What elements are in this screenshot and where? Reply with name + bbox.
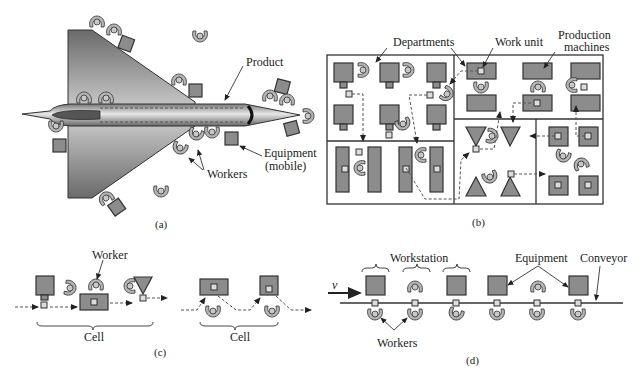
cell-left-label: Cell (84, 330, 105, 344)
panel-c-cellular-layout: Worker Cell Cell (c) (15, 248, 311, 359)
workers-label: Workers (207, 167, 248, 181)
work-unit (581, 84, 587, 90)
worker-icon (193, 31, 208, 42)
worker-label: Worker (92, 248, 128, 262)
worker-icon (187, 127, 205, 142)
mobile-equipment (284, 120, 300, 136)
mobile-equipment (189, 84, 202, 97)
panel-a-caption: (a) (155, 218, 168, 231)
product-label: Product (246, 55, 284, 69)
work-unit (386, 132, 392, 138)
line-workers (368, 307, 586, 322)
conveyor-label: Conveyor (580, 251, 627, 265)
production-machine (334, 63, 353, 82)
worker-icon (280, 94, 295, 105)
workstation-label: Workstation (390, 251, 448, 265)
cell-machine (134, 277, 152, 294)
production-machine (427, 63, 446, 82)
production-machine (501, 127, 520, 146)
product-pointer (225, 66, 243, 100)
equipment-label-d: Equipment (515, 251, 568, 265)
worker-icon (49, 121, 64, 132)
production-machine (523, 63, 552, 79)
workstation-equipment (569, 276, 588, 295)
mobile-equipment (108, 198, 126, 216)
equipment-label: Equipment (264, 146, 317, 160)
panel-b-process-layout: Departments Work unit Production machine… (327, 28, 611, 229)
workstation-equipment (488, 276, 507, 295)
production-machine (427, 105, 446, 124)
work-unit (508, 171, 514, 177)
worker-icon (171, 141, 189, 156)
worker-icon (107, 24, 122, 35)
work-unit (473, 146, 479, 152)
mobile-equipment (225, 132, 238, 145)
department-heat-treat (549, 127, 598, 195)
production-machines-label-sub: machines (564, 40, 610, 54)
workstation-equipment (366, 276, 385, 295)
production-machine (334, 105, 353, 124)
work-unit (478, 68, 484, 74)
cell-machine (36, 276, 54, 295)
worker-icon (303, 109, 314, 124)
equipment-label-sub: (mobile) (265, 159, 306, 173)
panel-d-caption: (d) (466, 354, 479, 367)
production-machine (571, 95, 600, 111)
worker-icon (154, 186, 169, 197)
worker-icon (205, 127, 220, 138)
workstation-equipment (447, 276, 466, 295)
panel-d-flow-line: v Workstation Equipment (328, 251, 627, 367)
production-machine (368, 147, 381, 192)
production-layouts-figure: Product Equipment (mobile) Workers (a) (0, 0, 637, 382)
production-machine (501, 177, 520, 196)
mobile-equipment (53, 139, 66, 152)
production-machine (380, 63, 399, 82)
worker-icon (89, 279, 104, 290)
equipment-pointer (240, 146, 262, 156)
department-grinding (466, 127, 520, 196)
production-machine (467, 95, 496, 111)
panel-b-caption: (b) (472, 216, 485, 229)
mobile-equipment (274, 79, 290, 95)
worker-icon (172, 74, 187, 85)
work-unit-label: Work unit (495, 35, 544, 49)
panel-a-fixed-position-layout: Product Equipment (mobile) Workers (a) (22, 16, 317, 231)
worker-icon (90, 16, 105, 27)
velocity-label: v (332, 278, 338, 292)
production-machine (571, 63, 600, 79)
workers-label-d: Workers (377, 336, 418, 350)
work-unit (427, 92, 433, 98)
work-unit (534, 100, 540, 106)
work-unit (356, 149, 362, 155)
cell-right-label: Cell (230, 330, 251, 344)
panel-c-caption: (c) (154, 346, 167, 359)
work-unit (346, 91, 352, 97)
departments-label: Departments (393, 35, 455, 49)
production-machine (466, 127, 486, 146)
department-milling (336, 147, 443, 192)
